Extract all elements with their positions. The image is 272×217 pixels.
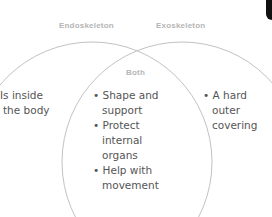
corner-shape — [266, 0, 272, 20]
right-set-items: • A hard outer covering — [203, 88, 257, 133]
list-item: internal — [93, 133, 159, 148]
list-item: • Help with — [93, 163, 159, 178]
list-item: • A hard — [203, 88, 257, 103]
intersection-label: Both — [126, 68, 145, 77]
left-set-items: Is inside the body — [0, 88, 50, 118]
list-item: movement — [93, 178, 159, 193]
list-item: support — [93, 103, 159, 118]
list-item: organs — [93, 148, 159, 163]
list-item: • Protect — [93, 118, 159, 133]
right-set-label: Exoskeleton — [156, 21, 205, 30]
list-item: Is inside — [0, 88, 50, 103]
venn-diagram: Endoskeleton Exoskeleton Both Is inside … — [0, 0, 272, 217]
list-item: • Shape and — [93, 88, 159, 103]
list-item: covering — [203, 118, 257, 133]
list-item: the body — [0, 103, 50, 118]
left-set-label: Endoskeleton — [59, 21, 114, 30]
intersection-items: • Shape and support • Protect internal o… — [93, 88, 159, 193]
list-item: outer — [203, 103, 257, 118]
